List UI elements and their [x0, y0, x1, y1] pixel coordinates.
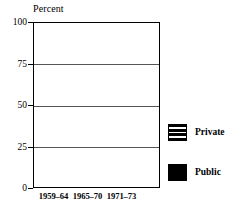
- y-axis-title: Percent: [33, 3, 64, 14]
- y-tick-mark-0: [28, 188, 33, 189]
- legend-swatch-private-icon: [168, 124, 187, 141]
- legend-label-private: Private: [195, 127, 225, 138]
- y-tick-label-50: 50: [0, 100, 27, 110]
- y-tick-label-75: 75: [0, 59, 27, 69]
- x-tick-label-3: 1971–73: [97, 191, 146, 201]
- chart-figure: Percent 100 75 50 25 0: [0, 0, 241, 211]
- y-tick-label-25: 25: [0, 142, 27, 152]
- gridline-50: [34, 106, 159, 107]
- gridline-25: [34, 147, 159, 148]
- y-tick-label-100: 100: [0, 17, 27, 27]
- legend-label-public: Public: [195, 167, 221, 178]
- legend-swatch-public-icon: [168, 164, 187, 181]
- legend-item-public: Public: [168, 164, 221, 181]
- plot-area: [33, 22, 160, 188]
- legend-item-private: Private: [168, 124, 225, 141]
- gridline-75: [34, 64, 159, 65]
- y-tick-label-0: 0: [0, 183, 27, 193]
